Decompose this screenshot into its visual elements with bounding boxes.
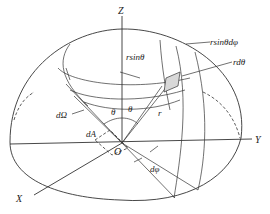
equator-back-right — [203, 92, 240, 138]
dphi-arrow-1 — [150, 146, 158, 152]
dphi-ray-2 — [122, 143, 198, 190]
spherical-diagram: Z X Y O rsinθ rsinθdφ rdθ dΩ dA θ θ r dφ — [0, 0, 270, 214]
r-dtheta-leader — [182, 62, 232, 76]
label-x: X — [15, 193, 23, 204]
label-d-omega: dΩ — [56, 110, 68, 120]
label-theta-right: θ — [128, 104, 133, 114]
label-r-sin-theta: rsinθ — [126, 52, 145, 62]
meridian-3 — [195, 52, 205, 190]
label-r-sin-theta-dphi: rsinθdφ — [210, 37, 238, 47]
label-r-dtheta: rdθ — [233, 57, 246, 67]
label-d-phi: dφ — [150, 164, 160, 174]
area-patch — [164, 72, 180, 92]
meridian-1 — [63, 44, 88, 106]
meridian-small — [160, 40, 170, 110]
label-dA: dA — [86, 129, 97, 139]
r-sin-theta-dphi-leader — [186, 42, 210, 44]
ray-left-2 — [74, 96, 122, 143]
label-origin: O — [114, 146, 121, 157]
label-theta-left: θ — [111, 107, 116, 117]
x-axis — [34, 143, 122, 195]
y-axis — [10, 139, 252, 144]
d-omega-leader — [72, 110, 84, 114]
equator-back — [14, 92, 34, 120]
r-sin-theta-arrow — [120, 72, 140, 78]
theta-arc-left — [104, 118, 122, 124]
meridian-2 — [174, 46, 183, 198]
dphi-arrow-2 — [134, 158, 142, 162]
label-r: r — [158, 108, 162, 118]
label-z: Z — [118, 5, 124, 16]
ray-right-2 — [122, 86, 162, 143]
label-y: Y — [255, 134, 262, 145]
